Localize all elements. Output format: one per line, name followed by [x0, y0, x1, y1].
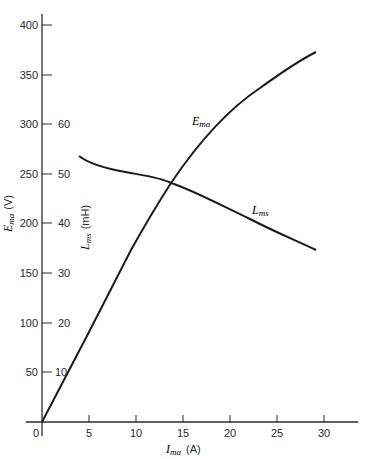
y-inner-tick-labels: 10 20 30 40 50 60 [55, 118, 70, 378]
svg-text:Lms: Lms [251, 203, 269, 218]
svg-text:400: 400 [20, 19, 38, 31]
svg-text:200: 200 [20, 217, 38, 229]
svg-text:Ema: Ema [191, 114, 211, 129]
series-ema-label: Ema [191, 114, 211, 129]
svg-text:40: 40 [58, 217, 70, 229]
y-left-axis-label: Ema(V) [1, 195, 16, 233]
svg-text:20: 20 [58, 317, 70, 329]
x-tick-labels: 0 5 10 15 20 25 30 [33, 427, 330, 439]
x-tick-30: 30 [318, 427, 330, 439]
chart-canvas: 0 5 10 15 20 25 30 Ima(A) 50 100 150 200… [0, 0, 367, 459]
x-tick-10: 10 [130, 427, 142, 439]
svg-text:60: 60 [58, 118, 70, 130]
svg-text:300: 300 [20, 118, 38, 130]
x-tick-15: 15 [177, 427, 189, 439]
x-tick-0: 0 [33, 427, 39, 439]
y-ticks [42, 25, 52, 372]
svg-text:Ema(V): Ema(V) [1, 195, 16, 233]
svg-text:50: 50 [26, 366, 38, 378]
x-axis-label: Ima(A) [165, 442, 201, 457]
series-lms-label: Lms [251, 203, 269, 218]
series-lms-line [79, 156, 316, 250]
x-tick-5: 5 [86, 427, 92, 439]
y-inner-axis-label: Lms(mH) [78, 205, 93, 251]
svg-text:30: 30 [58, 267, 70, 279]
svg-text:Ima(A): Ima(A) [165, 442, 201, 457]
svg-text:100: 100 [20, 317, 38, 329]
x-tick-20: 20 [224, 427, 236, 439]
svg-text:350: 350 [20, 69, 38, 81]
svg-text:50: 50 [58, 168, 70, 180]
x-tick-25: 25 [271, 427, 283, 439]
svg-text:150: 150 [20, 267, 38, 279]
x-ticks [89, 415, 324, 422]
svg-text:Lms(mH): Lms(mH) [78, 205, 93, 251]
y-left-tick-labels: 50 100 150 200 250 300 350 400 [20, 19, 38, 378]
svg-text:250: 250 [20, 168, 38, 180]
